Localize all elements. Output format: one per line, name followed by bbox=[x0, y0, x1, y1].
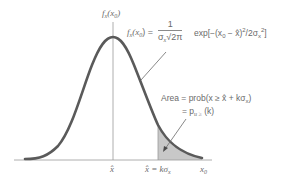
formula-numerator: 1 bbox=[158, 19, 182, 31]
formula-fraction: 1 σx√2π bbox=[158, 19, 182, 43]
area-pointer bbox=[165, 119, 186, 149]
tail-area-shade bbox=[158, 125, 202, 160]
formula-pointer bbox=[141, 52, 166, 80]
y-axis-label: fx(x0) bbox=[102, 8, 120, 19]
area-label-line2: = pu ≥ (k) bbox=[182, 106, 214, 117]
formula-lhs: fx(x0) = bbox=[127, 27, 153, 38]
x-tick-mean: x̂ bbox=[110, 164, 114, 174]
area-label-line1: Area = prob(x ≥ x̂ + kσx) bbox=[161, 93, 251, 104]
formula-exponential: exp[−(x0 − x̂)2/2σx2] bbox=[194, 27, 267, 39]
x-tick-threshold: x̂ = kσx bbox=[145, 164, 171, 175]
x-axis-label: x0 bbox=[200, 164, 207, 175]
formula-denominator: σx√2π bbox=[158, 31, 182, 43]
